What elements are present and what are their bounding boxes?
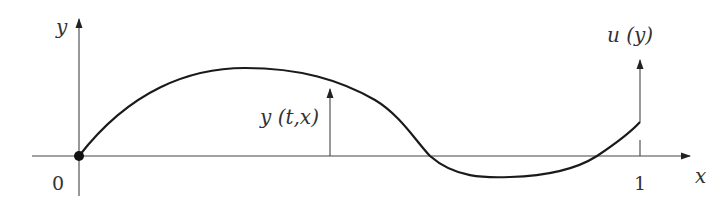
origin-dot (74, 151, 84, 161)
x-end-label: 1 (634, 172, 646, 194)
x-axis-label: x (695, 164, 706, 188)
origin-label: 0 (52, 172, 64, 194)
y-axis-label: y (55, 15, 68, 39)
string-curve (79, 68, 640, 177)
control-label: u (y) (607, 23, 653, 47)
displacement-label: y (t,x) (259, 105, 319, 129)
string-diagram: y x 0 1 y (t,x) u (y) (0, 0, 714, 201)
